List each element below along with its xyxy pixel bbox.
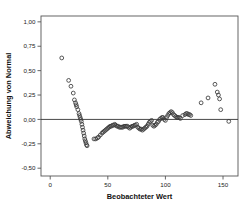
- y-tick-label: 0,50: [23, 67, 36, 74]
- y-axis-title: Abweichung von Normal: [4, 53, 13, 140]
- y-tick-label: -0,25: [21, 140, 36, 147]
- data-point: [227, 119, 231, 123]
- y-tick-label: 0,75: [23, 42, 36, 49]
- y-tick-label: 0,25: [23, 91, 36, 98]
- data-point: [206, 96, 210, 100]
- y-tick-label: 0,00: [23, 116, 36, 123]
- x-axis-title: Beobachteter Wert: [107, 192, 173, 201]
- chart-screenshot: 1,000,750,500,250,00-0,25-0,50 050100150…: [0, 0, 251, 214]
- data-point: [60, 56, 64, 60]
- data-point: [218, 97, 222, 101]
- data-point: [69, 84, 73, 88]
- data-point: [213, 82, 217, 86]
- data-point: [199, 101, 203, 105]
- data-point: [67, 78, 71, 82]
- scatter-plot: 1,000,750,500,250,00-0,25-0,50 050100150…: [0, 0, 251, 214]
- y-tick-label: 1,00: [23, 18, 36, 25]
- x-tick-label: 0: [48, 181, 52, 188]
- y-tick-label: -0,50: [21, 164, 36, 171]
- data-point: [71, 91, 75, 95]
- data-points-layer: [60, 56, 231, 148]
- x-tick-label: 50: [104, 181, 111, 188]
- x-tick-label: 150: [218, 181, 229, 188]
- y-axis-ticks: 1,000,750,500,250,00-0,25-0,50: [21, 18, 41, 171]
- data-point: [219, 108, 223, 112]
- x-axis-ticks: 050100150: [48, 176, 228, 188]
- x-tick-label: 100: [160, 181, 171, 188]
